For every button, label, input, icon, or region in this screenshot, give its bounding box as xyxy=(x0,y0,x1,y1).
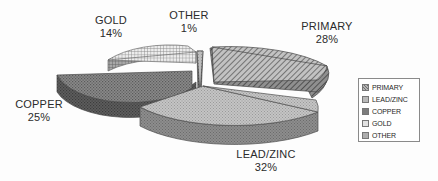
legend-swatch-copper-icon xyxy=(362,108,369,115)
legend-label-gold: GOLD xyxy=(372,120,391,128)
slice-label-lead-zinc-value: 32% xyxy=(222,161,310,174)
slice-label-gold-name: GOLD xyxy=(78,14,144,27)
slice-label-lead-zinc: LEAD/ZINC 32% xyxy=(222,148,310,174)
legend-swatch-lead-zinc-icon xyxy=(362,96,369,103)
legend-swatch-other-icon xyxy=(362,132,369,139)
pie-slice-gold[interactable] xyxy=(108,45,196,71)
legend-swatch-gold-icon xyxy=(362,120,369,127)
legend-item-gold[interactable]: GOLD xyxy=(362,118,417,129)
legend-label-lead-zinc: LEAD/ZINC xyxy=(372,96,408,104)
slice-label-other-value: 1% xyxy=(155,22,223,35)
legend-label-other: OTHER xyxy=(372,132,396,140)
legend-swatch-primary-icon xyxy=(362,84,369,91)
legend-label-primary: PRIMARY xyxy=(372,84,403,92)
slice-label-copper-name: COPPER xyxy=(2,98,76,111)
legend-item-lead-zinc[interactable]: LEAD/ZINC xyxy=(362,94,417,105)
slice-label-primary-name: PRIMARY xyxy=(288,20,366,33)
pie-chart-figure: GOLD 14% OTHER 1% PRIMARY 28% COPPER 25%… xyxy=(0,0,438,181)
slice-label-primary: PRIMARY 28% xyxy=(288,20,366,46)
legend-item-primary[interactable]: PRIMARY xyxy=(362,82,417,93)
chart-legend: PRIMARY LEAD/ZINC COPPER GOLD OTHER xyxy=(358,78,420,142)
slice-label-other: OTHER 1% xyxy=(155,9,223,35)
legend-item-other[interactable]: OTHER xyxy=(362,130,417,141)
slice-label-gold-value: 14% xyxy=(78,27,144,40)
slice-label-primary-value: 28% xyxy=(288,33,366,46)
slice-label-other-name: OTHER xyxy=(155,9,223,22)
legend-label-copper: COPPER xyxy=(372,108,401,116)
slice-label-gold: GOLD 14% xyxy=(78,14,144,40)
slice-label-copper-value: 25% xyxy=(2,111,76,124)
slice-label-copper: COPPER 25% xyxy=(2,98,76,124)
slice-label-lead-zinc-name: LEAD/ZINC xyxy=(222,148,310,161)
legend-item-copper[interactable]: COPPER xyxy=(362,106,417,117)
